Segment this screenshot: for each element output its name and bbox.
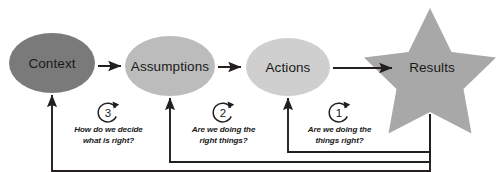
loop-question-3-line2: what is right? [83,136,134,145]
loop-number-2: 2 [220,107,226,119]
node-label-results: Results [409,60,455,75]
loop-question-3-line1: How do we decide [74,125,143,134]
loop-number-3: 3 [105,107,111,119]
loop-marker-1: 1 Are we doing the things right? [307,102,372,146]
loop-question-1-line2: things right? [315,136,363,145]
loop-marker-2: 2 Are we doing the right things? [191,102,256,146]
loop-question-2-line2: right things? [199,136,247,145]
node-assumptions: Assumptions [125,36,215,96]
node-label-assumptions: Assumptions [131,59,210,74]
loop-question-1-line1: Are we doing the [307,125,372,134]
diagram-canvas: Context Assumptions Actions Results [0,0,496,172]
feedback-loop-diagram: Context Assumptions Actions Results [0,0,496,172]
node-actions: Actions [246,38,330,96]
loop-number-1: 1 [336,107,342,119]
loop-question-2-line1: Are we doing the [191,125,256,134]
loop-marker-3: 3 How do we decide what is right? [74,102,143,146]
node-context: Context [9,33,95,93]
node-label-actions: Actions [266,60,311,75]
node-label-context: Context [28,56,75,71]
